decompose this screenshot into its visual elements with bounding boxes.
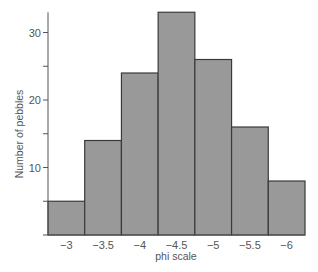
bar [232,127,269,235]
y-axis-title: Number of pebbles [13,90,25,179]
y-tick-label: 10 [29,162,41,174]
bar [195,60,232,236]
x-tick-label: −5 [207,239,220,251]
x-tick-label: −3 [60,239,73,251]
x-tick-label: −5.5 [239,239,261,251]
bars [48,12,305,235]
y-tick-label: 30 [29,27,41,39]
y-axis: 102030 [29,12,48,235]
histogram-chart: 102030 −3−3.5−4−4.5−5−5.5−6 phi scale Nu… [0,0,318,272]
x-tick-label: −4 [134,239,147,251]
y-tick-label: 20 [29,94,41,106]
x-axis: −3−3.5−4−4.5−5−5.5−6 [43,235,305,251]
bar [85,141,122,236]
x-axis-title: phi scale [155,250,197,262]
bar [121,73,158,235]
bar [158,12,195,235]
x-tick-label: −6 [280,239,293,251]
bar [48,201,85,235]
bar [268,181,305,235]
x-tick-label: −3.5 [92,239,114,251]
